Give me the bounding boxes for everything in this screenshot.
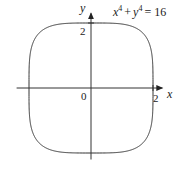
equation-x-exp: 4 xyxy=(118,4,122,13)
plot-area: y x 0 2 2 x4+y4= 16 xyxy=(0,0,182,180)
equation-y-exp: 4 xyxy=(138,4,142,13)
y-tick-label-2: 2 xyxy=(80,25,86,37)
equation-plus: + xyxy=(124,5,131,19)
equation-rhs: = 16 xyxy=(144,5,166,19)
x-axis-label: x xyxy=(166,87,173,101)
origin-label: 0 xyxy=(81,90,87,102)
x-tick-label-2: 2 xyxy=(153,92,159,104)
y-axis-label: y xyxy=(79,1,86,15)
equation-label: x4+y4= 16 xyxy=(112,4,166,19)
